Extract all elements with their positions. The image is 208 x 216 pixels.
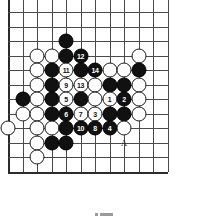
- move-number: 4: [108, 125, 112, 132]
- stone-white[interactable]: [131, 92, 146, 107]
- stone-white-move-9[interactable]: 9: [59, 77, 74, 92]
- stone-white[interactable]: [44, 121, 59, 136]
- stone-black-move-12[interactable]: 12: [73, 48, 88, 63]
- stone-white-move-7[interactable]: 7: [73, 106, 88, 121]
- stone-black[interactable]: [131, 63, 146, 78]
- stone-white[interactable]: [30, 121, 45, 136]
- caption-bar-mark: [100, 213, 113, 216]
- stone-black[interactable]: [73, 92, 88, 107]
- stone-black[interactable]: [59, 135, 74, 150]
- stone-black[interactable]: [59, 121, 74, 136]
- stone-white[interactable]: [30, 48, 45, 63]
- stone-white-move-5[interactable]: 5: [59, 92, 74, 107]
- move-number: 12: [77, 52, 84, 59]
- move-number: 1: [108, 96, 112, 103]
- move-number: 7: [79, 110, 83, 117]
- move-number: 3: [93, 110, 97, 117]
- stone-black-move-14[interactable]: 14: [88, 63, 103, 78]
- stone-white[interactable]: [30, 106, 45, 121]
- move-number: 8: [93, 125, 97, 132]
- grid-line-vertical: [168, 0, 169, 172]
- stone-white-move-11[interactable]: 11: [59, 63, 74, 78]
- stone-black[interactable]: [102, 77, 117, 92]
- stone-black-move-8[interactable]: 8: [88, 121, 103, 136]
- stone-black[interactable]: [59, 34, 74, 49]
- stone-black-move-4[interactable]: 4: [102, 121, 117, 136]
- stone-black-move-10[interactable]: 10: [73, 121, 88, 136]
- stone-black[interactable]: [44, 92, 59, 107]
- move-number: 6: [64, 110, 68, 117]
- stone-white[interactable]: [88, 92, 103, 107]
- stone-black[interactable]: [117, 77, 132, 92]
- stone-black-move-2[interactable]: 2: [117, 92, 132, 107]
- stone-black[interactable]: [15, 92, 30, 107]
- stone-white-move-3[interactable]: 3: [88, 106, 103, 121]
- move-number: 5: [64, 96, 68, 103]
- stone-white[interactable]: [30, 150, 45, 165]
- stone-white[interactable]: [117, 63, 132, 78]
- stone-white[interactable]: [30, 63, 45, 78]
- move-number: 13: [77, 81, 84, 88]
- go-board[interactable]: 1211149135126731084 A: [0, 0, 208, 216]
- move-number: 14: [92, 67, 99, 74]
- caption-dot-mark: [95, 213, 98, 216]
- stone-white[interactable]: [117, 121, 132, 136]
- go-diagram-figure: 1211149135126731084 A: [0, 0, 208, 216]
- stone-white-move-1[interactable]: 1: [102, 92, 117, 107]
- stone-black[interactable]: [59, 48, 74, 63]
- stone-white[interactable]: [131, 77, 146, 92]
- stone-white[interactable]: [30, 92, 45, 107]
- move-number: 9: [64, 81, 68, 88]
- grid-line-horizontal: [8, 172, 168, 174]
- stone-white[interactable]: [88, 77, 103, 92]
- stone-white-move-13[interactable]: 13: [73, 77, 88, 92]
- stone-white[interactable]: [131, 106, 146, 121]
- stone-black[interactable]: [73, 63, 88, 78]
- stone-white[interactable]: [15, 106, 30, 121]
- stone-black[interactable]: [102, 106, 117, 121]
- figure-caption: [0, 202, 208, 216]
- stone-black[interactable]: [117, 106, 132, 121]
- stone-white[interactable]: [102, 63, 117, 78]
- point-label-a: A: [121, 138, 128, 148]
- stone-black[interactable]: [44, 63, 59, 78]
- move-number: 2: [122, 96, 126, 103]
- grid-line-horizontal: [8, 41, 168, 42]
- grid-line-horizontal: [8, 12, 168, 13]
- stone-white[interactable]: [30, 77, 45, 92]
- stone-white[interactable]: [30, 135, 45, 150]
- stone-white[interactable]: [131, 48, 146, 63]
- move-number: 11: [63, 67, 70, 74]
- stone-black[interactable]: [44, 135, 59, 150]
- move-number: 10: [77, 125, 84, 132]
- stone-black[interactable]: [44, 77, 59, 92]
- grid-line-horizontal: [8, 27, 168, 28]
- stone-black[interactable]: [44, 106, 59, 121]
- stone-black-move-6[interactable]: 6: [59, 106, 74, 121]
- stone-white[interactable]: [1, 121, 16, 136]
- stone-white[interactable]: [44, 48, 59, 63]
